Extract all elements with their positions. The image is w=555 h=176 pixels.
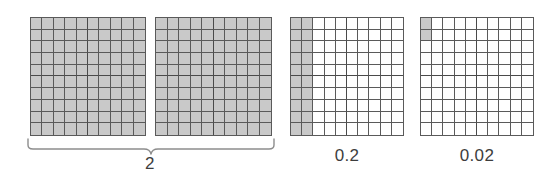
grid-cell	[54, 30, 65, 42]
grid-cell	[347, 53, 358, 65]
grid-cell	[347, 123, 358, 135]
grid-cell	[477, 18, 488, 30]
grid-cell	[134, 18, 145, 30]
grid-cell	[202, 53, 214, 65]
grid-cell	[111, 76, 122, 88]
grid-cell	[168, 76, 180, 88]
grid-cell	[358, 65, 369, 77]
grid-cell	[42, 30, 53, 42]
grid-cell	[260, 41, 272, 53]
grid-cell	[65, 30, 76, 42]
grid-cell	[77, 76, 88, 88]
grid-cell	[179, 100, 191, 112]
grid-cell	[313, 88, 324, 100]
grid-cell	[443, 112, 454, 124]
grid-cell	[77, 65, 88, 77]
grid-cell	[260, 112, 272, 124]
grid-cell	[381, 41, 392, 53]
grid-cell	[477, 76, 488, 88]
grid-cell	[260, 65, 272, 77]
grid-cell	[511, 123, 522, 135]
grid-cell	[122, 76, 133, 88]
grid-cell	[214, 88, 226, 100]
grid-cell	[65, 100, 76, 112]
grid-cell	[455, 65, 466, 77]
grid-cell	[99, 18, 110, 30]
grid-cell	[168, 100, 180, 112]
grid-cell	[421, 65, 432, 77]
grid-cell	[134, 76, 145, 88]
grid-cell	[225, 88, 237, 100]
grid-cell	[347, 112, 358, 124]
grid-cell	[179, 88, 191, 100]
grid-cell	[134, 123, 145, 135]
grid-cell	[191, 41, 203, 53]
grid-cell	[122, 65, 133, 77]
grid-cell	[511, 30, 522, 42]
grid-cell	[477, 88, 488, 100]
grid-cell	[202, 100, 214, 112]
grid-cell	[191, 123, 203, 135]
grid-cell	[214, 41, 226, 53]
grid-cell	[202, 123, 214, 135]
grid-cell	[522, 112, 533, 124]
grid-cell	[31, 41, 42, 53]
grid-cell	[156, 112, 168, 124]
grid-cell	[421, 112, 432, 124]
grid-cell	[42, 76, 53, 88]
grid-cell	[156, 88, 168, 100]
grid-cell	[225, 65, 237, 77]
grid-cell	[313, 53, 324, 65]
grid-cell	[432, 88, 443, 100]
grid-cell	[191, 53, 203, 65]
grid-cell	[225, 53, 237, 65]
grid-cell	[65, 123, 76, 135]
grid-cell	[488, 88, 499, 100]
grid-cell	[65, 18, 76, 30]
grid-cell	[54, 76, 65, 88]
grid-cell	[31, 123, 42, 135]
grid-cell	[191, 112, 203, 124]
grid-cell	[347, 30, 358, 42]
grid-cell	[248, 18, 260, 30]
grid-cell	[168, 18, 180, 30]
grid-cell	[522, 76, 533, 88]
grid-cell	[421, 76, 432, 88]
grid-cell	[369, 88, 380, 100]
grid-cell	[156, 65, 168, 77]
grid-cell	[432, 30, 443, 42]
grid-cell	[65, 65, 76, 77]
grid-cell	[31, 53, 42, 65]
grid-cell	[168, 41, 180, 53]
grid-cell	[302, 30, 313, 42]
grid-cell	[156, 53, 168, 65]
grid-cell	[77, 30, 88, 42]
grid-cell	[99, 53, 110, 65]
grid-cell	[31, 18, 42, 30]
grid-cell	[499, 112, 510, 124]
figure-canvas: 2 0.2 0.02	[0, 0, 555, 176]
grid-cell	[488, 112, 499, 124]
grid-cell	[443, 41, 454, 53]
grid-cell	[111, 53, 122, 65]
grid-cell	[381, 18, 392, 30]
grid-cell	[31, 76, 42, 88]
grid-cell	[477, 123, 488, 135]
grid-cell	[88, 65, 99, 77]
grid-cell	[111, 30, 122, 42]
grid-cell	[77, 41, 88, 53]
grid-cell	[392, 65, 403, 77]
grid-cell	[325, 53, 336, 65]
grid-cell	[443, 18, 454, 30]
grid-cell	[477, 41, 488, 53]
grid-cell	[455, 100, 466, 112]
grid-cell	[291, 30, 302, 42]
grid-cell	[99, 65, 110, 77]
grid-cell	[392, 100, 403, 112]
grid-cell	[202, 41, 214, 53]
grid-cell	[88, 30, 99, 42]
grid-cell	[511, 100, 522, 112]
grid-cell	[214, 18, 226, 30]
grid-cell	[237, 65, 249, 77]
grid-cell	[336, 88, 347, 100]
